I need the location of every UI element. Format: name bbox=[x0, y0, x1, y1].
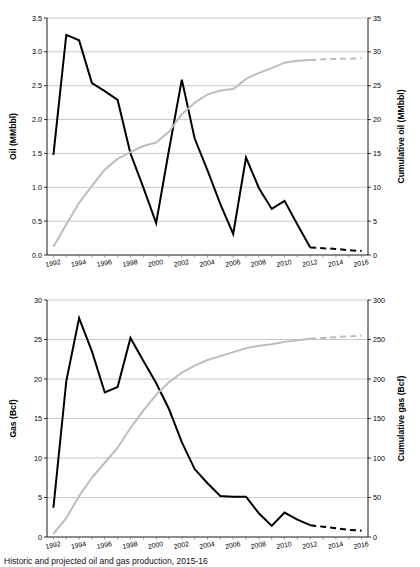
x-tick-label: 2014 bbox=[327, 258, 344, 268]
x-tick-label: 1994 bbox=[70, 540, 87, 550]
series-oil-0 bbox=[53, 35, 310, 248]
series-oil-1 bbox=[310, 248, 361, 251]
y-tick-label-left: 0 bbox=[38, 533, 42, 542]
y-tick-label-right: 0 bbox=[373, 533, 377, 542]
x-tick-label: 1992 bbox=[45, 540, 62, 550]
x-tick-label: 2016 bbox=[353, 540, 370, 550]
x-tick-label: 2012 bbox=[301, 258, 318, 268]
y-tick-label-left: 20 bbox=[34, 375, 42, 384]
x-tick-label: 2008 bbox=[250, 540, 267, 550]
series-gas-3 bbox=[310, 336, 361, 339]
figure-container: 0.00.51.01.52.02.53.03.50510152025303519… bbox=[0, 0, 420, 567]
y-tick-label-left: 1.5 bbox=[32, 149, 42, 158]
y-tick-label-left: 0.5 bbox=[32, 217, 42, 226]
chart-gas: 0510152025300501001502002503001992199419… bbox=[0, 282, 420, 560]
y-tick-label-right: 50 bbox=[373, 493, 381, 502]
x-tick-label: 2000 bbox=[147, 540, 164, 550]
figure-caption: Historic and projected oil and gas produ… bbox=[4, 556, 416, 567]
y-tick-label-right: 15 bbox=[373, 149, 381, 158]
y-tick-label-left: 0.0 bbox=[32, 251, 42, 260]
y-tick-label-right: 5 bbox=[373, 217, 377, 226]
x-tick-label: 2008 bbox=[250, 258, 267, 268]
y-tick-label-left: 25 bbox=[34, 335, 42, 344]
chart-panel-oil: 0.00.51.01.52.02.53.03.50510152025303519… bbox=[0, 0, 420, 278]
y-tick-label-left: 2.0 bbox=[32, 115, 42, 124]
y-tick-label-right: 35 bbox=[373, 14, 381, 23]
y-tick-label-right: 20 bbox=[373, 115, 381, 124]
y-tick-label-left: 3.0 bbox=[32, 47, 42, 56]
x-tick-label: 2010 bbox=[276, 258, 293, 268]
y-tick-label-right: 25 bbox=[373, 81, 381, 90]
chart-panel-gas: 0510152025300501001502002503001992199419… bbox=[0, 282, 420, 560]
series-gas-1 bbox=[310, 525, 361, 531]
y-tick-label-right: 250 bbox=[373, 335, 385, 344]
series-gas-2 bbox=[53, 339, 310, 534]
chart-oil: 0.00.51.01.52.02.53.03.50510152025303519… bbox=[0, 0, 420, 278]
y-tick-label-right: 150 bbox=[373, 414, 385, 423]
x-tick-label: 2002 bbox=[173, 540, 190, 550]
x-tick-label: 2012 bbox=[301, 540, 318, 550]
x-tick-label: 1996 bbox=[96, 258, 113, 268]
x-tick-label: 2014 bbox=[327, 540, 344, 550]
y-tick-label-right: 0 bbox=[373, 251, 377, 260]
series-gas-0 bbox=[53, 318, 310, 526]
x-tick-label: 2002 bbox=[173, 258, 190, 268]
x-tick-label: 1996 bbox=[96, 540, 113, 550]
y-tick-label-left: 1.0 bbox=[32, 183, 42, 192]
x-tick-label: 2006 bbox=[224, 258, 241, 268]
y-axis-title-left: Oil (MMbbl) bbox=[8, 113, 18, 160]
y-tick-label-right: 100 bbox=[373, 454, 385, 463]
y-tick-label-right: 10 bbox=[373, 183, 381, 192]
x-tick-label: 1994 bbox=[70, 258, 87, 268]
y-tick-label-right: 300 bbox=[373, 296, 385, 305]
y-axis-title-left: Gas (Bcf) bbox=[8, 399, 18, 437]
x-tick-label: 1998 bbox=[122, 540, 139, 550]
x-tick-label: 1992 bbox=[45, 258, 62, 268]
y-tick-label-left: 15 bbox=[34, 414, 42, 423]
y-tick-label-left: 2.5 bbox=[32, 81, 42, 90]
x-tick-label: 2004 bbox=[199, 258, 216, 268]
x-tick-label: 2004 bbox=[199, 540, 216, 550]
y-tick-label-right: 30 bbox=[373, 47, 381, 56]
y-tick-label-left: 10 bbox=[34, 454, 42, 463]
y-axis-title-right: Cumulative oil (MMbbl) bbox=[396, 89, 406, 183]
y-tick-label-left: 5 bbox=[38, 493, 42, 502]
x-tick-label: 1998 bbox=[122, 258, 139, 268]
x-tick-label: 2000 bbox=[147, 258, 164, 268]
y-tick-label-left: 30 bbox=[34, 296, 42, 305]
series-oil-3 bbox=[310, 58, 361, 60]
y-tick-label-left: 3.5 bbox=[32, 14, 42, 23]
x-tick-label: 2016 bbox=[353, 258, 370, 268]
x-tick-label: 2010 bbox=[276, 540, 293, 550]
x-tick-label: 2006 bbox=[224, 540, 241, 550]
y-tick-label-right: 200 bbox=[373, 375, 385, 384]
y-axis-title-right: Cumulative gas (Bcf) bbox=[396, 376, 406, 462]
